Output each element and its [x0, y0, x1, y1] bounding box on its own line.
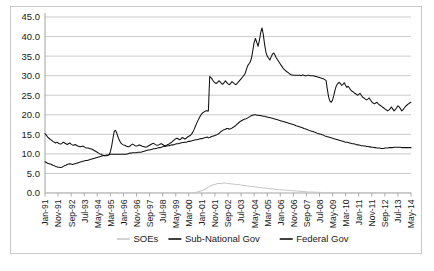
x-axis-tick-label: Nov-96 [132, 199, 142, 227]
x-axis-tick-label: Sep-12 [380, 199, 390, 227]
y-axis-tick-label: 0.0 [27, 187, 40, 198]
x-axis-tick-label: Nov-06 [289, 199, 299, 227]
x-axis-tick-label: Jul-98 [158, 199, 168, 223]
x-axis-tick-label: Jul-13 [393, 199, 403, 223]
x-axis-tick-label: Jan-91 [40, 199, 50, 225]
x-axis-ticks-group [45, 193, 411, 197]
x-axis-tick-label: Nov-91 [53, 199, 63, 227]
x-axis-tick-label: Mar-95 [106, 199, 116, 226]
x-axis-tick-label: Nov-01 [210, 199, 220, 227]
x-axis-tick-label: Mar-00 [184, 199, 194, 226]
y-axis-tick-label: 15.0 [22, 129, 41, 140]
x-axis-tick-label: Jul-93 [80, 199, 90, 223]
x-axis-tick-label: May-99 [171, 199, 181, 228]
y-axis-tick-label: 5.0 [27, 168, 40, 179]
x-axis-tick-label: Mar-10 [341, 199, 351, 226]
x-axis-tick-label: Jan-06 [276, 199, 286, 225]
x-axis-tick-label: Sep-07 [302, 199, 312, 227]
y-axis-tick-label: 30.0 [22, 70, 41, 81]
gridlines-group [45, 13, 411, 193]
y-axis-tick-label: 10.0 [22, 148, 41, 159]
series-line-soes [45, 183, 411, 193]
x-axis-tick-label: Jul-08 [315, 199, 325, 223]
y-axis-tick-label: 45.0 [22, 11, 41, 22]
x-axis-tick-label: Nov-11 [367, 199, 377, 226]
x-axis-tick-label: May-14 [406, 199, 416, 228]
series-line-federal-gov [45, 28, 411, 156]
legend-label: Federal Gov [296, 233, 349, 244]
x-axis-tick-label: May-04 [250, 199, 260, 228]
x-axis-tick-label: Jul-03 [236, 199, 246, 223]
legend-label: Sub-National Gov [185, 233, 260, 244]
x-axis-tick-label: May-09 [328, 199, 338, 228]
data-series-group [45, 28, 411, 193]
series-line-sub-national-gov [45, 115, 411, 168]
x-axis-tick-label: Sep-02 [223, 199, 233, 227]
x-axis-tick-labels-group: Jan-91Nov-91Sep-92Jul-93May-94Mar-95Jan-… [40, 199, 416, 228]
chart-plot-wrapper: 0.05.010.015.020.025.030.035.040.045.0 J… [11, 7, 423, 255]
x-axis-tick-label: Jan-01 [197, 199, 207, 225]
y-axis-tick-labels-group: 0.05.010.015.020.025.030.035.040.045.0 [22, 11, 41, 198]
x-axis-tick-label: Sep-97 [145, 199, 155, 227]
y-axis-tick-label: 40.0 [22, 31, 41, 42]
x-axis-tick-label: Jan-96 [119, 199, 129, 225]
x-axis-tick-label: Jan-11 [354, 199, 364, 225]
x-axis-tick-label: Sep-92 [67, 199, 77, 227]
x-axis-tick-label: Mar-05 [263, 199, 273, 226]
x-axis-tick-label: May-94 [93, 199, 103, 228]
chart-container: 0.05.010.015.020.025.030.035.040.045.0 J… [10, 6, 422, 254]
y-axis-tick-label: 35.0 [22, 51, 41, 62]
chart-legend: SOEsSub-National GovFederal Gov [117, 233, 349, 244]
y-axis-tick-label: 20.0 [22, 109, 41, 120]
line-chart: 0.05.010.015.020.025.030.035.040.045.0 J… [11, 7, 423, 255]
legend-label: SOEs [133, 233, 158, 244]
y-axis-tick-label: 25.0 [22, 90, 41, 101]
